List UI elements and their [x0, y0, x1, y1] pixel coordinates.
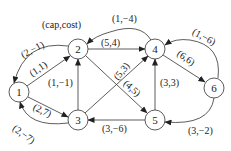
edge-label-6-5: (3,−2) [188, 125, 213, 137]
edge-label-4-6: (6,6) [175, 48, 198, 69]
edge-label-3-1: (2,−7) [10, 122, 37, 146]
edge-label-1-2: (1,1) [27, 59, 50, 80]
node-1: 1 [9, 82, 29, 102]
edge-label-3-2: (1,−1) [48, 77, 73, 89]
edge-label-2-4: (5,4) [101, 37, 120, 49]
edge-label-2-5: (4,5) [121, 77, 143, 99]
edge-label-5-3: (3,−6) [102, 123, 127, 135]
node-6-label: 6 [211, 82, 217, 94]
node-4-label: 4 [152, 43, 158, 55]
node-3-label: 3 [75, 114, 81, 126]
edge-6-5 [165, 98, 214, 123]
node-2-label: 2 [75, 43, 81, 55]
node-4: 4 [145, 39, 165, 59]
node-3: 3 [68, 110, 88, 130]
node-1-label: 1 [16, 86, 22, 98]
edge-label-6-4: (1,−6) [190, 26, 218, 48]
edge-label-4-2: (1,−4) [112, 13, 137, 25]
edge-label-1-3: (2,7) [31, 101, 53, 120]
node-5-label: 5 [152, 114, 158, 126]
edge-label-5-4: (3,3) [160, 77, 179, 89]
node-2: 2 [68, 39, 88, 59]
edge-label-2-1: (2,−1) [19, 39, 47, 61]
node-6: 6 [204, 78, 224, 98]
network-flow-diagram: (cap,cost) (1,1) (2,−1) (2,7) (2,−7) (5,… [0, 0, 231, 151]
node-5: 5 [145, 110, 165, 130]
legend-cap-cost: (cap,cost) [42, 19, 81, 31]
